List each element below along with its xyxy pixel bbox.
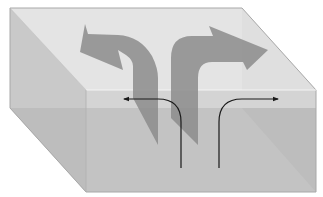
diagram-canvas [0,0,323,197]
box-front-face-upper [86,90,316,108]
box-flow-diagram [0,0,323,197]
